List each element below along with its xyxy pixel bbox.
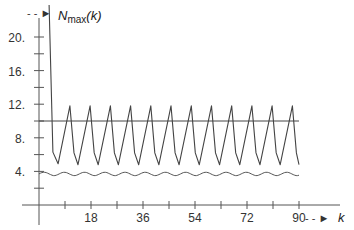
sawtooth-line — [49, 5, 299, 165]
labels: Nmax(k) - - ► - - ► k — [27, 7, 346, 225]
y-tick-label: 12. — [8, 98, 25, 112]
chart: 18365472904.8.12.16.20. Nmax(k) - - ► - … — [0, 0, 354, 230]
x-tick-label: 54 — [188, 211, 202, 225]
x-tick-label: 90 — [292, 211, 306, 225]
y-tick-label: 20. — [8, 31, 25, 45]
y-tick-label: 8. — [15, 132, 25, 146]
series — [39, 5, 299, 176]
y-axis-label: Nmax(k) — [58, 8, 101, 25]
x-axis-label: k — [338, 210, 346, 225]
x-arrow-annotation: - - ► — [305, 212, 329, 224]
y-tick-label: 16. — [8, 65, 25, 79]
y-tick-label: 4. — [15, 165, 25, 179]
wavy-lower-line — [39, 172, 299, 175]
x-tick-label: 72 — [240, 211, 254, 225]
x-tick-label: 36 — [136, 211, 150, 225]
y-arrow-annotation: - - ► — [27, 7, 51, 19]
x-tick-label: 18 — [84, 211, 98, 225]
